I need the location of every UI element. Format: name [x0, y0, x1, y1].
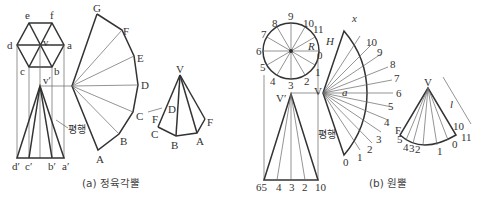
- diagram-canvas: e f d v a c b v′ d′ c′ b′ a′ 평행 G F: [0, 0, 487, 203]
- dev-label-9: 9: [377, 46, 383, 58]
- dev-label-2: 2: [367, 143, 373, 155]
- dev-label-E: E: [137, 52, 144, 64]
- pyr-label-A: A: [196, 135, 204, 147]
- circle-label-0: 0: [317, 49, 323, 61]
- dev-label-10: 10: [366, 36, 378, 48]
- label-e: e: [25, 9, 30, 21]
- circle-label-6: 6: [256, 45, 262, 57]
- dev-label-3: 3: [376, 133, 382, 145]
- parallel-label-a: 평행: [68, 124, 86, 135]
- label-V-prime: V′: [276, 92, 286, 104]
- cone-label-1: 1: [437, 145, 443, 157]
- parallel-label-b: 평행: [318, 129, 336, 140]
- label-c-prime: c′: [25, 160, 32, 172]
- dev-label-D: D: [141, 79, 149, 91]
- dev-label-0: 0: [343, 156, 349, 168]
- label-c: c: [20, 65, 25, 77]
- label-a-prime: a′: [62, 160, 69, 172]
- dev-label-6: 6: [396, 87, 402, 99]
- circle-label-3: 3: [288, 79, 294, 91]
- label-v: v: [43, 36, 49, 48]
- base-label-65: 65: [256, 181, 268, 193]
- pyr-label-V: V: [176, 63, 184, 75]
- circle-label-5: 5: [260, 61, 266, 73]
- caption-b: (b) 원뿔: [369, 177, 407, 189]
- circle-label-1: 1: [315, 66, 321, 78]
- base-label-4: 4: [276, 181, 282, 193]
- label-a: a: [342, 86, 348, 98]
- label-d-prime: d′: [12, 160, 20, 172]
- label-R: R: [307, 40, 315, 52]
- label-V: V: [314, 85, 322, 97]
- cone-label-l: l: [450, 98, 453, 110]
- dev-label-5: 5: [388, 100, 394, 112]
- circle-label-11: 11: [313, 23, 324, 35]
- dev-label-F: F: [123, 25, 129, 37]
- cone-label-11: 11: [461, 131, 472, 143]
- pyr-label-B: B: [171, 139, 178, 151]
- dev-label-B: B: [120, 135, 127, 147]
- pyr-label-F-right: F: [207, 116, 213, 128]
- label-H: H: [325, 35, 335, 47]
- circle-label-7: 7: [261, 28, 267, 40]
- figure-b-cone: 9 8 7 6 5 4 3 2 1 0 10 11 R H V′ V 65 4 …: [256, 10, 472, 193]
- base-label-2: 2: [302, 181, 308, 193]
- circle-label-9: 9: [288, 10, 294, 22]
- assembled-pyramid: [148, 75, 205, 136]
- base-label-3: 3: [289, 181, 295, 193]
- figure-a-hexagonal-pyramid: e f d v a c b v′ d′ c′ b′ a′ 평행 G F: [7, 2, 213, 189]
- dev-label-4: 4: [384, 116, 390, 128]
- cone-label-0: 0: [452, 138, 458, 150]
- dev-label-1: 1: [357, 151, 363, 163]
- label-x: x: [351, 12, 357, 24]
- parallel-arrow-a: [56, 120, 68, 128]
- label-d: d: [7, 39, 13, 51]
- label-b: b: [54, 65, 60, 77]
- label-f: f: [50, 9, 54, 21]
- cone-label-2: 2: [415, 143, 421, 155]
- circle-label-4: 4: [270, 75, 276, 87]
- circle-label-2: 2: [304, 75, 310, 87]
- pyr-label-F-left: F: [152, 113, 158, 125]
- dev-label-G: G: [93, 2, 101, 14]
- pyr-label-C: C: [151, 128, 158, 140]
- pointer-arrow: [148, 108, 162, 112]
- dev-label-A: A: [96, 153, 104, 165]
- caption-a: (a) 정육각뿔: [82, 177, 140, 189]
- label-v-prime: v′: [43, 74, 51, 86]
- dev-label-8: 8: [390, 58, 396, 70]
- cone-elevation: [264, 93, 320, 180]
- dev-label-7: 7: [394, 72, 400, 84]
- pyr-label-D: D: [168, 103, 176, 115]
- dev-label-C: C: [136, 110, 143, 122]
- base-label-10: 10: [315, 181, 327, 193]
- label-a: a: [67, 39, 72, 51]
- label-b-prime: b′: [48, 160, 56, 172]
- circle-label-8: 8: [272, 17, 278, 29]
- cone-label-V: V: [424, 76, 432, 88]
